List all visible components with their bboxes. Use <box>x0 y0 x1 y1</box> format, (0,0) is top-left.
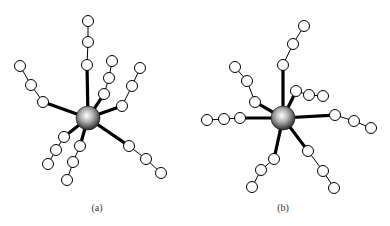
monomer-bead <box>269 154 280 165</box>
panel-b-caption: (b) <box>263 202 303 213</box>
monomer-bead <box>202 115 213 126</box>
monomer-bead <box>104 73 115 84</box>
monomer-bead <box>318 166 329 177</box>
monomer-bead <box>51 145 62 156</box>
monomer-bead <box>141 154 152 165</box>
monomer-bead <box>15 61 26 72</box>
monomer-bead <box>38 97 49 108</box>
monomer-bead <box>62 175 73 186</box>
monomer-bead <box>127 81 138 92</box>
monomer-bead <box>242 76 253 87</box>
monomer-bead <box>83 16 94 27</box>
panel-a-star-polymer <box>15 16 167 186</box>
monomer-bead <box>299 21 310 32</box>
monomer-bead <box>318 91 329 102</box>
monomer-bead <box>156 168 167 179</box>
monomer-bead <box>304 90 315 101</box>
core-sphere <box>271 106 295 130</box>
panel-a-caption: (a) <box>77 202 117 213</box>
monomer-bead <box>59 132 70 143</box>
monomer-bead <box>117 101 128 112</box>
monomer-bead <box>250 97 261 108</box>
monomer-bead <box>291 86 302 97</box>
monomer-bead <box>329 183 340 194</box>
monomer-bead <box>82 60 93 71</box>
monomer-bead <box>366 123 377 134</box>
monomer-bead <box>247 182 258 193</box>
monomer-bead <box>107 56 118 67</box>
core-sphere <box>76 106 100 130</box>
monomer-bead <box>235 113 246 124</box>
monomer-bead <box>303 146 314 157</box>
monomer-bead <box>135 63 146 74</box>
monomer-bead <box>219 114 230 125</box>
monomer-bead <box>43 159 54 170</box>
monomer-bead <box>330 110 341 121</box>
monomer-bead <box>288 39 299 50</box>
monomer-bead <box>83 37 94 48</box>
monomer-bead <box>278 60 289 71</box>
monomer-bead <box>68 157 79 168</box>
monomer-bead <box>349 116 360 127</box>
monomer-bead <box>256 165 267 176</box>
monomer-bead <box>99 89 110 100</box>
panel-b-star-polymer <box>202 21 377 194</box>
monomer-bead <box>124 141 135 152</box>
monomer-bead <box>75 141 86 152</box>
monomer-bead <box>26 80 37 91</box>
monomer-bead <box>230 62 241 73</box>
star-polymer-figure <box>0 0 390 226</box>
